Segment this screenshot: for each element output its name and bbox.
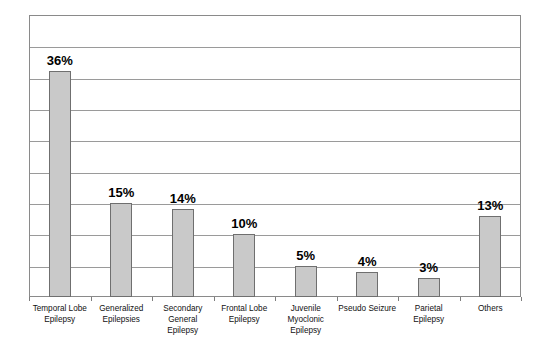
bar[interactable] bbox=[172, 209, 194, 297]
bar[interactable] bbox=[49, 71, 71, 297]
x-axis-tick bbox=[398, 297, 399, 301]
bar-chart: 36%15%14%10%5%4%3%13% Temporal Lobe Epil… bbox=[0, 0, 541, 356]
bar[interactable] bbox=[418, 278, 440, 297]
bar-group: 4% bbox=[337, 15, 399, 297]
bar[interactable] bbox=[479, 216, 501, 297]
x-axis-category-label: Frontal Lobe Epilepsy bbox=[214, 303, 276, 325]
x-axis-tick bbox=[91, 297, 92, 301]
bar-group: 10% bbox=[214, 15, 276, 297]
x-axis-tick bbox=[460, 297, 461, 301]
x-axis-category-label: Generalized Epilepsies bbox=[91, 303, 153, 325]
bar-value-label: 4% bbox=[358, 254, 377, 269]
x-axis-tick bbox=[152, 297, 153, 301]
x-axis-tick bbox=[214, 297, 215, 301]
bars-layer: 36%15%14%10%5%4%3%13% bbox=[29, 15, 521, 297]
bar-value-label: 13% bbox=[477, 198, 503, 213]
x-axis-category-labels: Temporal Lobe EpilepsyGeneralized Epilep… bbox=[29, 303, 521, 355]
x-axis-category-label: Parietal Epilepsy bbox=[398, 303, 460, 325]
x-axis-category-label: Secondary General Epilepsy bbox=[152, 303, 214, 336]
bar[interactable] bbox=[295, 266, 317, 297]
bar-value-label: 15% bbox=[108, 185, 134, 200]
x-axis-category-label: Temporal Lobe Epilepsy bbox=[29, 303, 91, 325]
bar[interactable] bbox=[110, 203, 132, 297]
x-axis-category-label: Others bbox=[460, 303, 522, 314]
x-axis-tick bbox=[521, 297, 522, 301]
x-axis-category-label: Juvenile Myoclonic Epilepsy bbox=[275, 303, 337, 336]
bar-group: 36% bbox=[29, 15, 91, 297]
bar-group: 15% bbox=[91, 15, 153, 297]
bar-value-label: 10% bbox=[231, 216, 257, 231]
bar-group: 5% bbox=[275, 15, 337, 297]
bar-value-label: 14% bbox=[170, 191, 196, 206]
x-axis-category-label: Pseudo Seizure bbox=[337, 303, 399, 314]
x-axis-tick-layer bbox=[29, 297, 521, 302]
bar[interactable] bbox=[356, 272, 378, 297]
bar-group: 3% bbox=[398, 15, 460, 297]
x-axis-tick bbox=[29, 297, 30, 301]
bar-value-label: 36% bbox=[47, 53, 73, 68]
x-axis-tick bbox=[275, 297, 276, 301]
bar[interactable] bbox=[233, 234, 255, 297]
bar-value-label: 5% bbox=[296, 248, 315, 263]
bar-value-label: 3% bbox=[419, 260, 438, 275]
bar-group: 13% bbox=[460, 15, 522, 297]
bar-group: 14% bbox=[152, 15, 214, 297]
x-axis-tick bbox=[337, 297, 338, 301]
